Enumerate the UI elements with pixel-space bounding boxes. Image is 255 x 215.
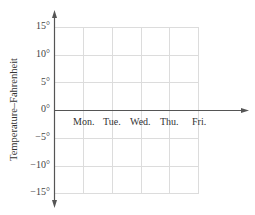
y-tick-label: 0° — [16, 104, 50, 114]
y-tick-label: 10° — [16, 49, 50, 59]
x-category-label: Mon. — [73, 117, 94, 127]
x-category-label: Fri. — [192, 117, 206, 127]
y-tick-label: −5° — [16, 132, 50, 142]
y-axis — [52, 10, 57, 208]
x-category-label: Wed. — [130, 117, 151, 127]
x-axis-right-arrow-icon — [241, 108, 249, 113]
temperature-grid-chart: Temperature–Fahrenheit 15° 10° 5° 0° −5°… — [0, 0, 255, 215]
x-category-label: Tue. — [103, 117, 121, 127]
y-axis-up-arrow-icon — [52, 10, 57, 18]
x-category-label: Thu. — [160, 117, 179, 127]
y-tick-label: 15° — [16, 21, 50, 31]
y-axis-down-arrow-icon — [52, 200, 57, 208]
y-tick-label: 5° — [16, 77, 50, 87]
y-tick-label: −10° — [16, 160, 50, 170]
y-tick-label: −15° — [16, 187, 50, 197]
